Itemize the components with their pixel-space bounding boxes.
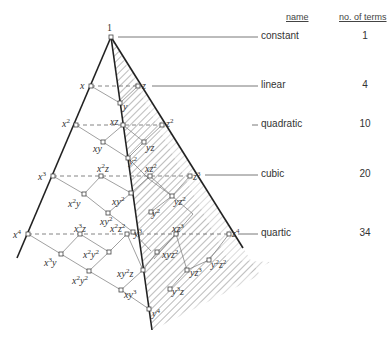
row-name-quartic: quartic [261, 227, 291, 238]
row-count-linear: 4 [345, 79, 385, 90]
term-xy: xy [93, 143, 102, 154]
term-y3: y3 [134, 227, 142, 239]
term-xy2z: xy2z [117, 267, 133, 279]
term-yz3: yz3 [190, 266, 202, 278]
row-count-quadratic: 10 [345, 118, 385, 129]
term-x3: x3 [38, 170, 46, 182]
term-x2y2-b: x2y2 [72, 274, 88, 286]
row-count-quartic: 34 [345, 227, 385, 238]
row-name-constant: constant [261, 30, 299, 41]
term-yz2: yz2 [174, 195, 186, 207]
term-y4: y4 [152, 307, 160, 319]
term-xz3: xz3 [172, 222, 184, 234]
term-x2z: x2z [97, 162, 109, 174]
term-xy2: xy2 [112, 195, 124, 207]
term-xy3: xy3 [124, 288, 136, 300]
term-x2y: x2y [68, 197, 80, 209]
row-count-constant: 1 [345, 30, 385, 41]
term-x2y2: x2y2 [83, 248, 99, 260]
term-x3z: x3z [74, 222, 86, 234]
term-xyz2: xyz2 [162, 248, 178, 260]
row-name-quadratic: quadratic [261, 118, 302, 129]
term-x: x [80, 80, 84, 91]
term-x2: x2 [62, 117, 70, 129]
term-z4: z4 [232, 227, 239, 239]
term-y: y [123, 101, 127, 112]
term-x2z2: x2z2 [110, 222, 125, 234]
term-y2z: y2 [152, 207, 160, 219]
term-constant: 1 [107, 22, 112, 33]
row-count-cubic: 20 [345, 168, 385, 179]
term-z: z [142, 80, 146, 91]
row-name-linear: linear [261, 79, 285, 90]
term-y2: y2 [129, 155, 137, 167]
header-name: name [286, 12, 309, 22]
term-xz: xz [110, 116, 118, 127]
term-x4: x4 [13, 228, 21, 240]
row-name-cubic: cubic [261, 168, 284, 179]
header-count: no. of terms [339, 12, 387, 22]
term-yz: yz [146, 142, 154, 153]
term-x3y: x3y [44, 256, 56, 268]
term-xz2: xz2 [145, 162, 157, 174]
term-z2: z2 [166, 117, 173, 129]
term-y2z2: y2z2 [211, 258, 226, 270]
term-y3z: y3z [172, 285, 184, 297]
term-z3: z3 [193, 170, 200, 182]
